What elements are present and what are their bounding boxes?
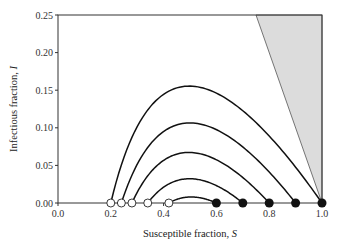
filled-start-marker (265, 199, 274, 208)
x-tick-label: 0.4 (157, 208, 170, 219)
x-tick-label: 0.2 (105, 208, 118, 219)
x-tick-label: 0.6 (210, 208, 223, 219)
open-end-marker (117, 199, 125, 207)
x-tick-label: 0.8 (263, 208, 276, 219)
x-tick-label: 0.0 (52, 208, 65, 219)
y-tick-label: 0.10 (36, 122, 54, 133)
x-tick-label: 1.0 (316, 208, 329, 219)
y-tick-label: 0.00 (36, 198, 54, 209)
sir-phase-plane-chart: 0.00.20.40.60.81.0 0.000.050.100.150.200… (0, 0, 345, 244)
y-tick-label: 0.15 (36, 85, 54, 96)
trajectory-5 (169, 197, 217, 203)
y-axis-label: Infectious fraction, I (8, 65, 19, 152)
x-axis-ticks: 0.00.20.40.60.81.0 (52, 203, 329, 219)
trajectory-3 (132, 152, 269, 203)
open-end-marker (107, 199, 115, 207)
filled-start-marker (238, 199, 247, 208)
y-tick-label: 0.25 (36, 10, 54, 21)
filled-start-marker (291, 199, 300, 208)
open-end-marker (165, 199, 173, 207)
filled-start-marker (212, 199, 221, 208)
y-tick-label: 0.20 (36, 47, 54, 58)
y-tick-label: 0.05 (36, 160, 54, 171)
y-axis-ticks: 0.000.050.100.150.200.25 (36, 10, 59, 209)
trajectory-4 (148, 179, 243, 203)
trajectory-2 (121, 123, 295, 203)
infeasible-region (256, 15, 322, 203)
open-end-marker (144, 199, 152, 207)
filled-start-marker (318, 199, 327, 208)
open-end-marker (128, 199, 136, 207)
x-axis-label: Susceptible fraction, S (143, 228, 238, 239)
